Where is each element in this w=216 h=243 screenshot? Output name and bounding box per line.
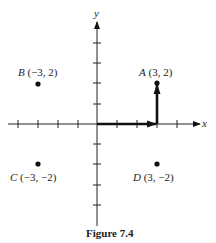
point-c-coords: (−3, −2) xyxy=(20,171,57,184)
svg-text:D (3, −2): D (3, −2) xyxy=(132,171,174,184)
point-c: C (−3, −2) xyxy=(10,161,57,184)
point-b-dot xyxy=(35,81,40,86)
coordinate-diagram: x y A (3, 2) B (−3, 2) C (−3, −2) xyxy=(0,0,216,243)
point-d: D (3, −2) xyxy=(132,161,174,184)
point-c-dot xyxy=(35,161,40,166)
svg-text:C (−3, −2): C (−3, −2) xyxy=(10,171,57,184)
point-c-name: C xyxy=(10,171,18,183)
x-axis-label: x xyxy=(201,117,207,129)
point-b-coords: (−3, 2) xyxy=(27,66,57,79)
point-a-name: A xyxy=(138,66,146,78)
point-d-coords: (3, −2) xyxy=(144,171,174,184)
point-a-coords: (3, 2) xyxy=(148,66,172,79)
figure-caption: Figure 7.4 xyxy=(86,227,134,239)
point-a-dot xyxy=(154,80,159,85)
svg-text:B (−3, 2): B (−3, 2) xyxy=(18,66,58,79)
point-d-dot xyxy=(154,161,159,166)
y-axis-label: y xyxy=(93,7,99,19)
point-b-name: B xyxy=(18,66,25,78)
svg-text:A (3, 2): A (3, 2) xyxy=(138,66,173,79)
y-axis: y xyxy=(93,7,101,226)
point-d-name: D xyxy=(132,171,141,183)
point-a: A (3, 2) xyxy=(138,66,173,86)
vector-components xyxy=(97,85,157,124)
point-b: B (−3, 2) xyxy=(18,66,58,87)
